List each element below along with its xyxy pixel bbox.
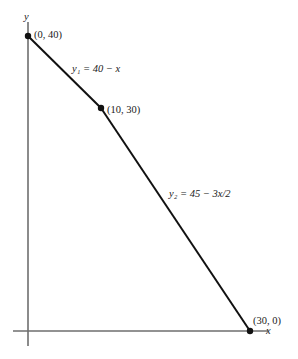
point-10-30: [98, 105, 104, 111]
y-axis-label: y: [23, 11, 29, 22]
equation-y2: y₂ = 45 − 3x/2: [168, 188, 231, 199]
point-label-10-30: (10, 30): [107, 104, 141, 116]
point-30-0: [247, 328, 253, 334]
piecewise-linear-diagram: y x (0, 40) (10, 30) (30, 0) y₁ = 40 − x…: [0, 0, 298, 359]
equation-y1: y₁ = 40 − x: [71, 63, 120, 74]
point-label-0-40: (0, 40): [34, 29, 62, 41]
point-0-40: [25, 33, 31, 39]
x-axis-label: x: [265, 325, 271, 336]
segment-y2: [101, 108, 250, 331]
point-label-30-0: (30, 0): [253, 315, 281, 327]
